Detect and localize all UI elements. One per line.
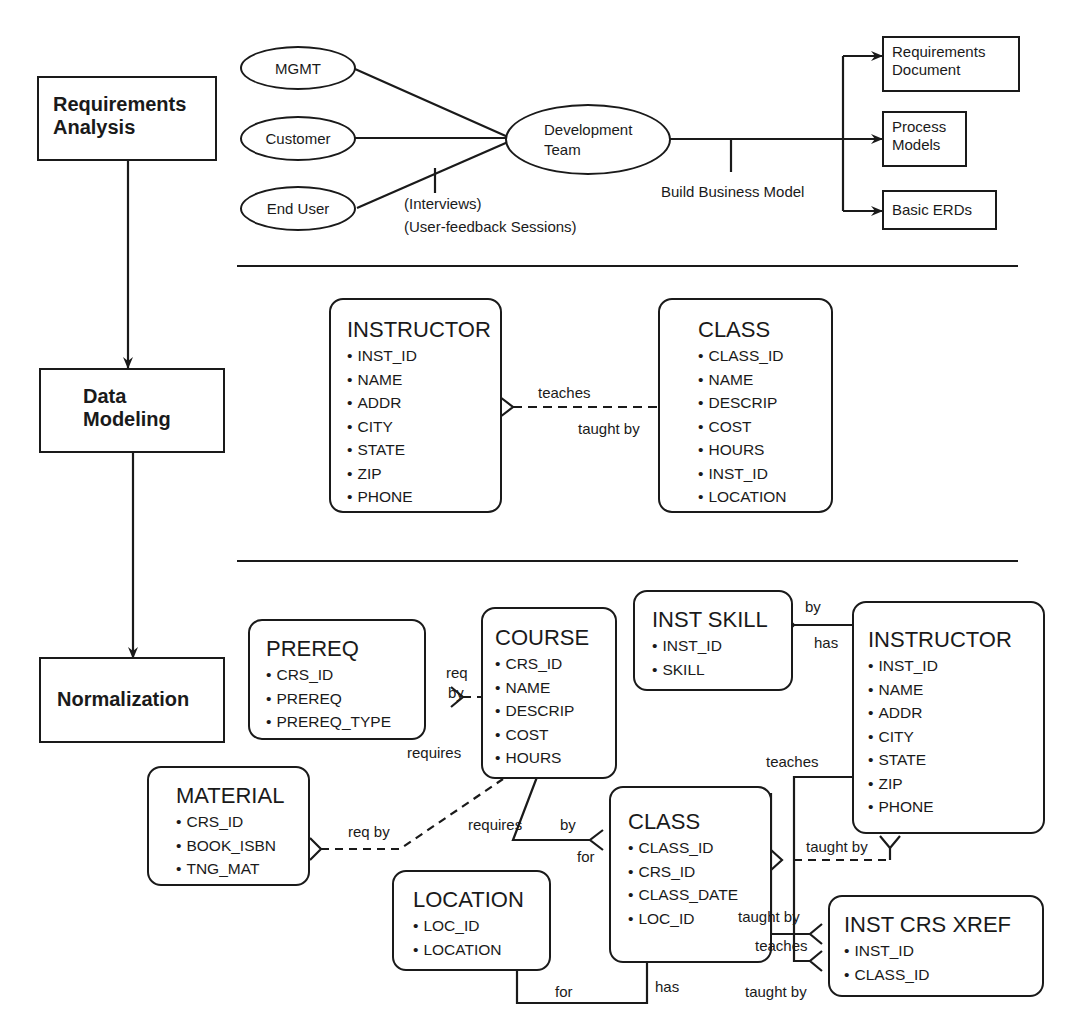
entity-field: CRS_ID: [176, 810, 308, 834]
entity-field: CLASS_ID: [698, 344, 831, 368]
entity-title: INST SKILL: [652, 608, 791, 632]
rel-label-instr-taught-by: taught by: [806, 838, 868, 855]
entity-field: DESCRIP: [495, 699, 615, 723]
user-feedback-label: (User-feedback Sessions): [404, 218, 577, 235]
entity-field: NAME: [347, 368, 500, 392]
entity-title: COURSE: [495, 626, 615, 650]
rel-label-prereq-by: by: [448, 684, 464, 701]
entity-field: TNG_MAT: [176, 857, 308, 881]
entity-field: PHONE: [347, 485, 500, 509]
entity-field: HOURS: [495, 746, 615, 770]
entity-field: PREREQ: [266, 687, 424, 711]
entity-field: SKILL: [652, 658, 791, 682]
entity-field: CRS_ID: [266, 663, 424, 687]
entity-prereq: PREREQ CRS_ID PREREQ PREREQ_TYPE: [248, 619, 426, 740]
entity-field: STATE: [347, 438, 500, 462]
entity-class-normalized: CLASS CLASS_ID CRS_ID CLASS_DATE LOC_ID: [609, 786, 772, 963]
entity-field: INST_ID: [652, 634, 791, 658]
rel-label-skill-has: has: [814, 634, 838, 651]
entity-field: INST_ID: [698, 462, 831, 486]
phase-requirements-analysis: Requirements Analysis: [37, 76, 217, 161]
rel-label-skill-by: by: [805, 598, 821, 615]
entity-field: ZIP: [347, 462, 500, 486]
entity-field: ADDR: [868, 701, 1043, 725]
entity-title: CLASS: [628, 810, 770, 834]
rel-label-location-for: for: [555, 983, 573, 1000]
stakeholder-customer: Customer: [240, 116, 356, 161]
entity-field: CRS_ID: [628, 860, 770, 884]
build-business-model-label: Build Business Model: [661, 183, 804, 200]
entity-field: CRS_ID: [495, 652, 615, 676]
rel-label-material-req-by: req by: [348, 823, 390, 840]
hub-label: Development: [544, 120, 632, 140]
entity-inst-crs-xref: INST CRS XREF INST_ID CLASS_ID: [828, 895, 1044, 997]
entity-field: NAME: [698, 368, 831, 392]
entity-material: MATERIAL CRS_ID BOOK_ISBN TNG_MAT: [147, 766, 310, 886]
entity-title: INST CRS XREF: [844, 913, 1042, 937]
entity-field: BOOK_ISBN: [176, 834, 308, 858]
output-basic-erds: Basic ERDs: [882, 190, 997, 230]
rel-label-xref-taught-by-2: taught by: [745, 983, 807, 1000]
stakeholder-mgmt: MGMT: [240, 46, 356, 90]
entity-title: LOCATION: [413, 888, 549, 912]
entity-field: STATE: [868, 748, 1043, 772]
entity-title: INSTRUCTOR: [347, 318, 500, 342]
rel-label-class-requires: requires: [468, 816, 522, 833]
output-requirements-document: Requirements Document: [882, 36, 1020, 92]
entity-field: LOCATION: [698, 485, 831, 509]
entity-field: CITY: [347, 415, 500, 439]
entity-field: PREREQ_TYPE: [266, 710, 424, 734]
entity-field: CITY: [868, 725, 1043, 749]
entity-title: PREREQ: [266, 637, 424, 661]
entity-field: INST_ID: [347, 344, 500, 368]
entity-class: CLASS CLASS_ID NAME DESCRIP COST HOURS I…: [658, 298, 833, 513]
rel-label-requires-prereq: requires: [407, 744, 461, 761]
rel-label-location-has: has: [655, 978, 679, 995]
entity-field: CLASS_ID: [628, 836, 770, 860]
entity-location: LOCATION LOC_ID LOCATION: [392, 870, 551, 971]
entity-title: CLASS: [698, 318, 831, 342]
rel-label-class-for: for: [577, 848, 595, 865]
entity-instructor: INSTRUCTOR INST_ID NAME ADDR CITY STATE …: [329, 298, 502, 513]
interviews-label: (Interviews): [404, 195, 482, 212]
phase-label: Analysis: [53, 116, 215, 139]
entity-title: INSTRUCTOR: [868, 628, 1043, 652]
stakeholder-label: End User: [267, 200, 330, 217]
entity-field: ZIP: [868, 772, 1043, 796]
entity-field: CLASS_ID: [844, 963, 1042, 987]
entity-field: INST_ID: [844, 939, 1042, 963]
entity-field: COST: [698, 415, 831, 439]
phase-label: Requirements: [53, 93, 215, 116]
phase-label: Data: [83, 385, 223, 408]
rel-label-instr-teaches: teaches: [766, 753, 819, 770]
entity-field: ADDR: [347, 391, 500, 415]
stakeholder-label: MGMT: [275, 60, 321, 77]
output-label: Process: [892, 118, 957, 136]
output-label: Document: [892, 61, 1010, 79]
entity-instructor-normalized: INSTRUCTOR INST_ID NAME ADDR CITY STATE …: [852, 601, 1045, 834]
rel-label-xref-teaches: teaches: [755, 937, 808, 954]
entity-field: NAME: [495, 676, 615, 700]
rel-label-req: req: [446, 664, 468, 681]
rel-label-class-by: by: [560, 816, 576, 833]
phase-label: Normalization: [57, 688, 223, 711]
entity-field: NAME: [868, 678, 1043, 702]
development-team: Development Team: [505, 104, 671, 175]
entity-field: HOURS: [698, 438, 831, 462]
stakeholder-label: Customer: [265, 130, 330, 147]
entity-field: PHONE: [868, 795, 1043, 819]
entity-field: INST_ID: [868, 654, 1043, 678]
rel-taught-by-label: taught by: [578, 420, 640, 437]
entity-field: CLASS_DATE: [628, 883, 770, 907]
output-label: Requirements: [892, 43, 1010, 61]
entity-course: COURSE CRS_ID NAME DESCRIP COST HOURS: [481, 607, 617, 779]
rel-teaches-label: teaches: [538, 384, 591, 401]
phase-data-modeling: Data Modeling: [39, 368, 225, 453]
phase-label: Modeling: [83, 408, 223, 431]
rel-label-xref-taught-by-1: taught by: [738, 908, 800, 925]
entity-field: DESCRIP: [698, 391, 831, 415]
entity-field: COST: [495, 723, 615, 747]
stakeholder-end-user: End User: [240, 186, 356, 231]
output-label: Basic ERDs: [892, 201, 987, 219]
output-label: Models: [892, 136, 957, 154]
